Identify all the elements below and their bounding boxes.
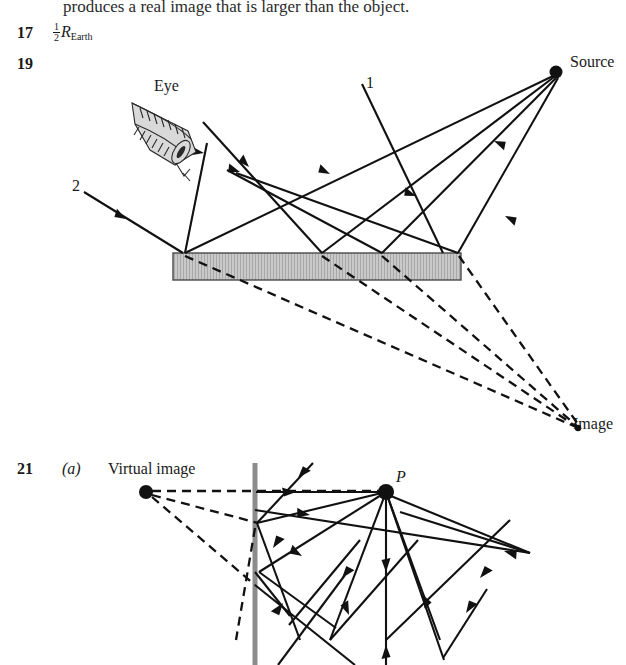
eye-icon xyxy=(132,103,196,181)
virtual-image-point xyxy=(139,485,153,499)
ray-arrowheads-21a xyxy=(269,465,518,659)
answer-21-part-label: (a) xyxy=(62,460,81,478)
plane-mirror xyxy=(173,253,461,280)
answer-number-21: 21 xyxy=(17,460,33,478)
diagram-19 xyxy=(84,66,581,432)
virtual-image-label: Virtual image xyxy=(108,460,195,478)
point-P-label: P xyxy=(396,468,406,486)
virtual-ray-extensions xyxy=(185,256,580,427)
ray-diagrams-canvas xyxy=(0,0,626,665)
diagram-21a xyxy=(139,463,530,665)
